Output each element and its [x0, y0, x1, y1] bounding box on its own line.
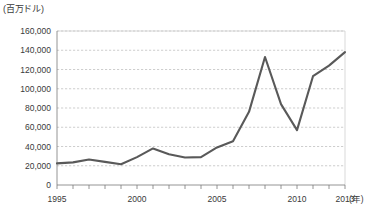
- y-axis-tick-label: 140,000: [20, 45, 51, 55]
- y-axis-tick-label: 160,000: [20, 26, 51, 36]
- y-axis-tick-labels: 160,000140,000120,000100,00080,00060,000…: [20, 26, 51, 190]
- y-axis-tick-label: 120,000: [20, 65, 51, 75]
- gridlines-group: [57, 31, 345, 166]
- chart-plot-svg: 160,000140,000120,000100,00080,00060,000…: [0, 0, 370, 222]
- y-axis-tick-label: 80,000: [25, 103, 51, 113]
- x-axis-tick-labels: 19952000200520102013: [48, 194, 355, 204]
- x-axis-tick-label: 2010: [288, 194, 307, 204]
- y-axis-tick-label: 100,000: [20, 84, 51, 94]
- x-axis-tick-label: 1995: [48, 194, 67, 204]
- y-axis-tick-label: 20,000: [25, 161, 51, 171]
- line-chart-figure: (百万ドル) 160,000140,000120,000100,00080,00…: [0, 0, 370, 222]
- x-axis-unit-group: (年): [349, 194, 364, 204]
- y-axis-tick-label: 40,000: [25, 142, 51, 152]
- x-axis-tickmarks: [57, 185, 345, 189]
- x-axis-tick-label: 2000: [128, 194, 147, 204]
- y-axis-tick-label: 0: [46, 180, 51, 190]
- x-axis-tick-label: 2005: [208, 194, 227, 204]
- y-axis-tick-label: 60,000: [25, 122, 51, 132]
- x-axis-unit-label: (年): [349, 194, 364, 204]
